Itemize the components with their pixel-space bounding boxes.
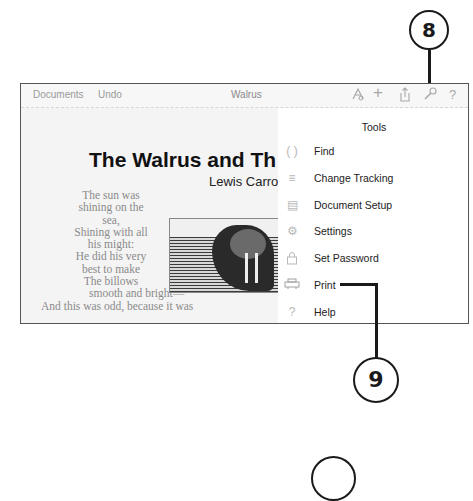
poem-line: The billows	[65, 275, 157, 287]
format-icon[interactable]	[351, 87, 365, 105]
menu-item-find[interactable]: ( ) Find	[278, 139, 469, 165]
menu-item-label: Document Setup	[314, 199, 392, 211]
toolbar: Documents Undo Walrus + ?	[21, 84, 468, 108]
poem-line: He did his very	[65, 250, 157, 262]
add-icon[interactable]: +	[373, 85, 383, 101]
popover-title: Tools	[278, 121, 469, 133]
menu-item-label: Find	[314, 145, 334, 157]
illustration-walrus-face	[230, 229, 266, 259]
poem-line: sea,	[65, 214, 157, 226]
poem-text: The sun was shining on the sea, Shining …	[65, 189, 157, 287]
printer-icon	[284, 278, 300, 292]
menu-item-help[interactable]: ? Help	[278, 300, 469, 324]
poem-line: Shining with all	[65, 226, 157, 238]
poem-line-clipped: And this was odd, because it was	[41, 300, 193, 312]
menu-item-print[interactable]: Print	[278, 273, 469, 299]
document-title: Walrus	[231, 89, 262, 100]
menu-item-settings[interactable]: ⚙ Settings	[278, 219, 469, 245]
poem-line: best to make	[65, 263, 157, 275]
document-setup-icon: ▤	[284, 198, 300, 212]
callout-8: 8	[409, 10, 449, 50]
illustration-tusk	[245, 253, 248, 283]
poem-line: shining on the	[65, 201, 157, 213]
walrus-illustration[interactable]	[169, 218, 279, 293]
menu-item-label: Settings	[314, 225, 352, 237]
lock-icon	[284, 251, 300, 265]
tools-popover: Tools ( ) Find ≡ Change Tracking ▤ Docum…	[278, 108, 469, 324]
undo-button[interactable]: Undo	[98, 89, 122, 100]
callout-9-line-horizontal	[340, 283, 378, 286]
help-icon: ?	[284, 305, 300, 319]
settings-icon: ⚙	[284, 224, 300, 238]
documents-button[interactable]: Documents	[33, 89, 84, 100]
help-icon[interactable]: ?	[449, 87, 456, 103]
share-icon[interactable]	[399, 87, 411, 106]
menu-item-label: Print	[314, 279, 336, 291]
callout-9: 9	[353, 357, 399, 403]
callout-partial	[311, 456, 356, 501]
change-tracking-icon: ≡	[284, 171, 300, 185]
menu-item-label: Help	[314, 306, 336, 318]
callout-9-line-vertical	[375, 283, 378, 358]
tools-wrench-icon[interactable]	[423, 87, 437, 105]
poem-line: The sun was	[65, 189, 157, 201]
menu-item-label: Change Tracking	[314, 172, 393, 184]
poem-line: his might:	[65, 238, 157, 250]
menu-item-change-tracking[interactable]: ≡ Change Tracking	[278, 166, 469, 192]
document-heading: The Walrus and Th	[89, 148, 276, 172]
find-icon: ( )	[284, 144, 300, 158]
document-author: Lewis Carro	[209, 174, 278, 189]
menu-item-label: Set Password	[314, 252, 379, 264]
illustration-tusk	[255, 253, 258, 283]
menu-item-document-setup[interactable]: ▤ Document Setup	[278, 193, 469, 219]
document-page[interactable]: The Walrus and Th Lewis Carro The sun wa…	[21, 108, 279, 324]
app-window: Documents Undo Walrus + ? The Walrus and…	[20, 83, 469, 324]
menu-item-set-password[interactable]: Set Password	[278, 246, 469, 272]
